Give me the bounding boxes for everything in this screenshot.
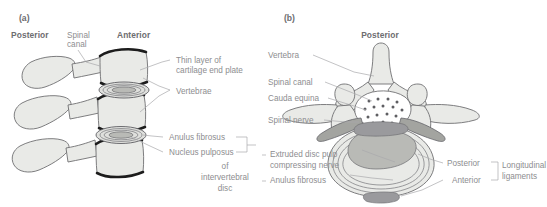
- panel-a-cartilage-label-line2: cartilage end plate: [176, 66, 243, 75]
- panel-b-extruded-label-line2: compressing nerve: [270, 161, 340, 170]
- vertebral-bodies: [96, 49, 148, 177]
- panel-b-spinal-canal-label: Spinal canal: [268, 78, 313, 87]
- pedicle-lower: [66, 140, 97, 162]
- pedicle-upper: [72, 57, 103, 78]
- panel-b-anterior-label: Anterior: [452, 176, 481, 185]
- panel-b-posterior-heading: Posterior: [361, 30, 399, 40]
- spinous-process-upper: [22, 56, 75, 88]
- pedicle-middle: [68, 97, 99, 119]
- panel-b-tag: (b): [284, 13, 295, 23]
- panel-b-left-bracket: [262, 155, 266, 181]
- intervertebral-disc-upper: [99, 82, 149, 98]
- panel-b-axial-vertebra: (b) Posterior: [262, 0, 547, 207]
- panel-a-anulus-label: Anulus fibrosus: [169, 133, 225, 142]
- panel-a-disc-bracket: [236, 137, 247, 152]
- panel-b-cauda-equina-label: Cauda equina: [268, 94, 319, 103]
- panel-a-cartilage-label-line1: Thin layer of: [176, 56, 222, 65]
- spinous-process-lower: [12, 139, 69, 172]
- intervertebral-disc-lower: [96, 127, 146, 144]
- panel-b-vertebra-label: Vertebra: [268, 51, 299, 60]
- panel-b-ligaments-bracket: [491, 162, 498, 180]
- panel-a-nucleus-label: Nucleus pulposus: [169, 148, 234, 157]
- spinous-process: [368, 43, 394, 84]
- leader-vertebra: [313, 55, 374, 76]
- panel-b-ligaments-label-line2: ligaments: [502, 172, 537, 181]
- disc-upper-nucleus: [112, 87, 136, 93]
- panel-b-posterior-label: Posterior: [447, 159, 480, 168]
- anterior-longitudinal-ligament: [363, 192, 399, 203]
- panel-a-spinal-canal-label-line1: Spinal: [67, 31, 90, 40]
- panel-a-anterior-heading: Anterior: [117, 30, 151, 40]
- panel-b-anulus-label: Anulus fibrosus: [270, 176, 326, 185]
- anatomy-figure: (a) Posterior Anterior Spinal canal: [0, 0, 547, 207]
- disc-lower-nucleus: [109, 132, 133, 138]
- panel-a-vertebrae-label: Vertebrae: [176, 87, 212, 96]
- articular-process-right: [407, 84, 427, 106]
- panel-a-tag: (a): [19, 13, 30, 23]
- vertebral-body-with-disc: [328, 126, 434, 197]
- panel-a-bracket-line2: intervertebral: [201, 173, 249, 182]
- extruded-disc-pulp: [354, 122, 408, 136]
- panel-a-bracket-line3: disc: [218, 184, 233, 193]
- transverse-process-right: [424, 105, 479, 124]
- panel-a-lateral-spine: (a) Posterior Anterior Spinal canal: [0, 0, 262, 207]
- panel-b-spinal-nerve-label: Spinal nerve: [268, 116, 314, 125]
- spinous-processes: [12, 56, 75, 172]
- spinous-process-middle: [14, 96, 71, 129]
- panel-a-bracket-line1: of: [222, 162, 230, 171]
- panel-a-spinal-canal-label-line2: canal: [67, 40, 87, 49]
- panel-a-posterior-heading: Posterior: [11, 30, 49, 40]
- vertebral-body-upper: [100, 49, 148, 87]
- panel-b-ligaments-label-line1: Longitudinal: [502, 161, 546, 170]
- panel-b-extruded-label-line1: Extruded disc pulp: [270, 150, 338, 159]
